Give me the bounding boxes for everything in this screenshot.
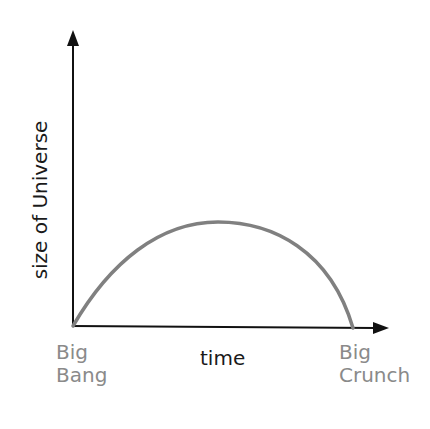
- big-bang-label: Big Bang: [56, 341, 107, 387]
- x-axis: [72, 322, 389, 334]
- big-crunch-label-line1: Big: [339, 341, 410, 364]
- big-bang-label-line1: Big: [56, 341, 107, 364]
- big-crunch-label-line2: Crunch: [339, 364, 410, 387]
- y-axis: [67, 30, 79, 327]
- x-axis-label: time: [200, 347, 245, 370]
- y-axis-label: size of Universe: [28, 121, 52, 280]
- big-bang-label-line2: Bang: [56, 364, 107, 387]
- x-axis-arrow-icon: [373, 322, 389, 334]
- universe-size-curve: [73, 222, 353, 328]
- big-crunch-label: Big Crunch: [339, 341, 410, 387]
- y-axis-arrow-icon: [67, 30, 79, 46]
